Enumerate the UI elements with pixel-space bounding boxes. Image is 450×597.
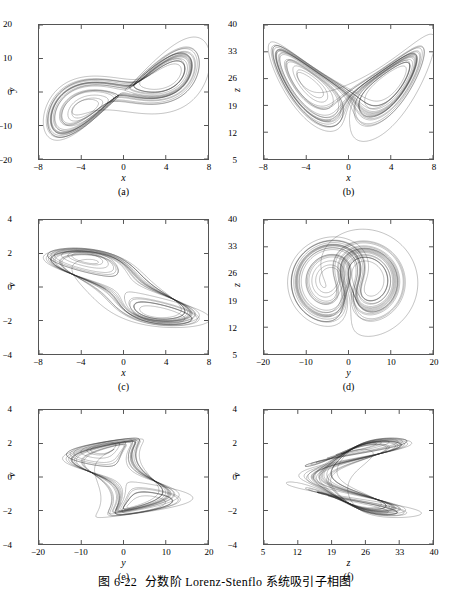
ytick-label-b: 33 [201, 46, 237, 56]
x-axis-label-f: z [225, 557, 450, 568]
ytick-label-d: 40 [201, 214, 237, 224]
ytick-label-e: 4 [0, 404, 12, 414]
ytick-label-d: 12 [201, 323, 237, 333]
ytick-label-a: −10 [0, 121, 12, 131]
x-axis-label-c: x [0, 367, 247, 378]
panel-e: −4−2024−20−1001020vy(e) [0, 385, 225, 575]
plot-area-c [38, 219, 209, 355]
ytick-label-b: 19 [201, 101, 237, 111]
ytick-label-d: 33 [201, 241, 237, 251]
plot-area-f [263, 409, 434, 545]
xtick-label-e: −10 [74, 547, 88, 557]
ytick-label-d: 5 [201, 350, 237, 360]
ytick-label-c: −2 [0, 316, 12, 326]
ytick-label-e: 2 [0, 438, 12, 448]
ytick-label-f: 4 [201, 404, 237, 414]
y-axis-label-b: z [231, 88, 242, 92]
xtick-label-f: 5 [261, 547, 266, 557]
ytick-label-a: −20 [0, 155, 12, 165]
x-axis-label-b: x [225, 172, 450, 183]
attractor-curve-c [39, 220, 208, 354]
xtick-label-b: 4 [389, 162, 394, 172]
xtick-label-b: 0 [346, 162, 351, 172]
xtick-label-f: 19 [327, 547, 336, 557]
xtick-label-f: 12 [293, 547, 302, 557]
panel-b: 51219263340−8−4048zx(b) [225, 0, 450, 190]
figure-container: −20−1001020−8−4048yx(a)51219263340−8−404… [0, 0, 450, 597]
y-axis-label-c: v [6, 283, 17, 287]
ytick-label-f: −2 [201, 506, 237, 516]
plot-area-d [263, 219, 434, 355]
xtick-label-c: −4 [76, 357, 86, 367]
ytick-label-c: −4 [0, 350, 12, 360]
panel-a: −20−1001020−8−4048yx(a) [0, 0, 225, 190]
xtick-label-a: −8 [33, 162, 43, 172]
xtick-label-a: −4 [76, 162, 86, 172]
xtick-label-b: −4 [301, 162, 311, 172]
plot-area-e [38, 409, 209, 545]
xtick-label-b: 8 [432, 162, 437, 172]
attractor-curve-f [264, 410, 433, 544]
ytick-label-d: 19 [201, 296, 237, 306]
ytick-label-c: 2 [0, 248, 12, 258]
xtick-label-b: −8 [258, 162, 268, 172]
y-axis-label-f: v [231, 473, 242, 477]
panel-d: 51219263340−20−1001020zy(d) [225, 195, 450, 385]
xtick-label-c: 4 [164, 357, 169, 367]
xtick-label-a: 4 [164, 162, 169, 172]
ytick-label-e: −2 [0, 506, 12, 516]
xtick-label-e: −20 [31, 547, 45, 557]
plot-area-a [38, 24, 209, 160]
xtick-label-a: 0 [121, 162, 126, 172]
attractor-curve-e [39, 410, 208, 544]
ytick-label-a: 10 [0, 53, 12, 63]
attractor-curve-b [264, 25, 433, 159]
panel-f: −4−202451219263340vz(f) [225, 385, 450, 575]
ytick-label-d: 26 [201, 268, 237, 278]
xtick-label-e: 10 [162, 547, 171, 557]
x-axis-label-d: y [225, 367, 450, 378]
y-axis-label-a: y [6, 88, 17, 92]
xtick-label-f: 40 [430, 547, 439, 557]
ytick-label-b: 26 [201, 73, 237, 83]
attractor-curve-a [39, 25, 208, 159]
attractor-curve-d [264, 220, 433, 354]
ytick-label-a: 20 [0, 19, 12, 29]
plot-area-b [263, 24, 434, 160]
ytick-label-c: 4 [0, 214, 12, 224]
ytick-label-e: −4 [0, 540, 12, 550]
xtick-label-d: −20 [256, 357, 270, 367]
figure-caption: 图 6-22分数阶 Lorenz-Stenflo 系统吸引子相图 [0, 572, 450, 590]
ytick-label-f: −4 [201, 540, 237, 550]
xtick-label-d: 20 [430, 357, 439, 367]
ytick-label-b: 40 [201, 19, 237, 29]
panel-c: −4−2024−8−4048vx(c) [0, 195, 225, 385]
xtick-label-c: −8 [33, 357, 43, 367]
x-axis-label-e: y [0, 557, 247, 568]
ytick-label-b: 12 [201, 128, 237, 138]
caption-number: 图 6-22 [98, 575, 137, 589]
xtick-label-d: 10 [387, 357, 396, 367]
ytick-label-f: 2 [201, 438, 237, 448]
y-axis-label-d: z [231, 283, 242, 287]
y-axis-label-e: v [6, 473, 17, 477]
ytick-label-b: 5 [201, 155, 237, 165]
xtick-label-d: 0 [346, 357, 351, 367]
x-axis-label-a: x [0, 172, 247, 183]
caption-text: 分数阶 Lorenz-Stenflo 系统吸引子相图 [145, 575, 351, 589]
xtick-label-f: 33 [395, 547, 404, 557]
xtick-label-d: −10 [299, 357, 313, 367]
xtick-label-c: 0 [121, 357, 126, 367]
xtick-label-f: 26 [361, 547, 370, 557]
xtick-label-e: 0 [121, 547, 126, 557]
